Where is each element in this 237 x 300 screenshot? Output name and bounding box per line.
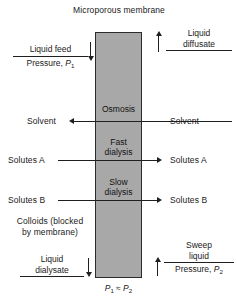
liquid-feed-pressure-group: Liquid feed Pressure, P1 bbox=[13, 44, 88, 69]
pressure-relation-left-subscript: 1 bbox=[111, 287, 115, 294]
zone-label-slow-dialysis-line1: Slow bbox=[95, 177, 142, 188]
sweep-inlet-arrow-shaft bbox=[157, 262, 158, 276]
flow-line-solutes-b bbox=[58, 200, 158, 201]
flow-label-solvent-right: Solvent bbox=[170, 116, 199, 127]
dialysate-outlet-arrow-head bbox=[86, 272, 92, 277]
colloids-note-line1: Colloids (blocked bbox=[8, 216, 92, 227]
diagram-title: Microporous membrane bbox=[70, 5, 168, 16]
flow-label-solvent-left: Solvent bbox=[27, 116, 56, 127]
liquid-dialysate-label-line2: dialysate bbox=[20, 265, 84, 276]
flow-arrow-solutes-b-right bbox=[157, 197, 162, 203]
feed-inlet-arrow-head bbox=[88, 56, 94, 61]
liquid-feed-label: Liquid feed bbox=[13, 44, 88, 55]
pressure-relation-left-symbol: P bbox=[105, 283, 111, 293]
zone-label-slow-dialysis-line2: dialysis bbox=[95, 187, 142, 198]
colloids-note-line2: by membrane) bbox=[8, 227, 92, 238]
liquid-diffusate-label-line2: diffusate bbox=[166, 39, 232, 50]
pressure-relation-right-symbol: P bbox=[123, 283, 129, 293]
liquid-dialysate-label-line1: Liquid bbox=[20, 254, 84, 265]
diffusate-outlet-arrow-shaft bbox=[158, 36, 159, 52]
sweep-liquid-label-line1: Sweep bbox=[164, 240, 234, 251]
liquid-dialysate-divider bbox=[20, 276, 84, 277]
liquid-diffusate-group: Liquid diffusate bbox=[166, 28, 232, 52]
flow-label-solutes-a-right: Solutes A bbox=[170, 155, 207, 166]
sweep-pressure-label: Pressure, P2 bbox=[164, 264, 234, 276]
zone-label-fast-dialysis-line2: dialysis bbox=[95, 147, 142, 158]
flow-label-solutes-b-left: Solutes B bbox=[8, 195, 45, 206]
feed-pressure-text: Pressure, bbox=[27, 58, 66, 68]
sweep-liquid-label-line2: liquid bbox=[164, 251, 234, 262]
pressure-relation: P1≈P2 bbox=[95, 283, 142, 295]
liquid-dialysate-group: Liquid dialysate bbox=[20, 254, 84, 278]
dialysate-outlet-arrow-shaft bbox=[88, 258, 89, 273]
zone-label-osmosis: Osmosis bbox=[95, 104, 142, 115]
flow-line-solutes-a bbox=[58, 160, 158, 161]
diffusate-outlet-arrow-head bbox=[156, 31, 162, 36]
flow-arrow-solvent-left bbox=[69, 118, 74, 124]
feed-pressure-label: Pressure, P1 bbox=[13, 58, 88, 70]
dialysis-membrane-diagram: Microporous membrane Osmosis Fast dialys… bbox=[0, 0, 237, 300]
colloids-blocked-note: Colloids (blocked by membrane) bbox=[8, 216, 92, 237]
sweep-inlet-arrow-head bbox=[155, 257, 161, 262]
pressure-relation-right-subscript: 2 bbox=[129, 287, 133, 294]
sweep-liquid-divider bbox=[164, 262, 234, 263]
liquid-diffusate-label-line1: Liquid bbox=[166, 28, 232, 39]
liquid-diffusate-divider bbox=[166, 50, 232, 51]
feed-inlet-arrow-shaft bbox=[90, 42, 91, 57]
flow-arrow-solutes-a-right bbox=[157, 157, 162, 163]
sweep-liquid-pressure-group: Sweep liquid Pressure, P2 bbox=[164, 240, 234, 276]
sweep-pressure-text: Pressure, bbox=[175, 264, 214, 274]
liquid-feed-divider bbox=[13, 56, 88, 57]
sweep-pressure-subscript: 2 bbox=[219, 268, 222, 275]
flow-label-solutes-a-left: Solutes A bbox=[8, 155, 45, 166]
flow-line-solvent bbox=[74, 121, 232, 122]
feed-pressure-subscript: 1 bbox=[71, 62, 74, 69]
flow-label-solutes-b-right: Solutes B bbox=[170, 195, 207, 206]
pressure-relation-operator: ≈ bbox=[116, 283, 121, 293]
zone-label-fast-dialysis-line1: Fast bbox=[95, 137, 142, 148]
